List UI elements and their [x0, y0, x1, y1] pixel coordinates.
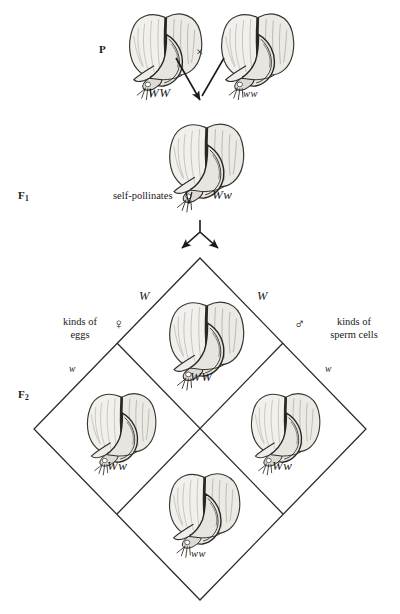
- generation-label-f2: F2: [18, 389, 29, 400]
- allele-label-lower-right: w: [325, 365, 331, 375]
- f1-genotype: Ww: [212, 188, 233, 201]
- f2-genotype-right: Ww: [272, 459, 293, 472]
- diagram-canvas: [0, 0, 400, 614]
- generation-label-f1: F1: [18, 190, 29, 201]
- parent-genotype-right: ww: [243, 89, 258, 100]
- allele-label-upper-right: W: [257, 290, 267, 303]
- f2-genotype-left: Ww: [107, 459, 128, 472]
- cross-symbol: ×: [196, 45, 203, 58]
- self-pollinates-label: self-pollinates: [113, 191, 172, 202]
- f2-genotype-bottom: ww: [191, 549, 206, 560]
- kinds-of-eggs-label: kinds of eggs: [49, 316, 111, 342]
- f2-genotype-top: WW: [190, 370, 213, 383]
- generation-label-p: P: [99, 44, 106, 55]
- kinds-of-sperm-cells-label: kinds of sperm cells: [312, 316, 396, 342]
- f2-flower-bottom: [170, 474, 240, 558]
- f1-flower: [170, 124, 244, 212]
- male-symbol-icon: ♂: [294, 317, 305, 332]
- female-symbol-icon: ♀: [113, 317, 124, 332]
- parent-genotype-left: WW: [148, 86, 171, 99]
- f1-to-f2-branch-arrow: [182, 220, 218, 248]
- allele-label-lower-left: w: [69, 365, 75, 375]
- allele-label-upper-left: W: [139, 290, 149, 303]
- genetics-diagram: P × WW ww F1 self-pollinates Ww F2 kinds…: [0, 0, 400, 614]
